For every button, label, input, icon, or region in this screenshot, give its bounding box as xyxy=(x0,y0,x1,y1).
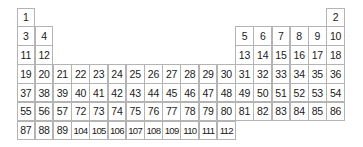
empty-cell xyxy=(126,8,144,27)
element-cell[interactable]: 9 xyxy=(308,26,327,45)
element-cell[interactable]: 53 xyxy=(308,83,327,102)
empty-cell xyxy=(145,8,163,27)
element-cell[interactable]: 1 xyxy=(17,8,36,27)
element-cell[interactable]: 35 xyxy=(308,64,327,83)
element-cell[interactable]: 54 xyxy=(326,83,345,102)
element-cell[interactable]: 36 xyxy=(326,64,345,83)
element-cell[interactable]: 104 xyxy=(71,121,90,140)
element-cell[interactable]: 4 xyxy=(35,26,54,45)
element-cell[interactable]: 38 xyxy=(35,83,54,102)
element-cell[interactable]: 88 xyxy=(35,121,54,140)
element-cell[interactable]: 32 xyxy=(253,64,272,83)
element-cell[interactable]: 10 xyxy=(326,26,345,45)
element-cell[interactable]: 43 xyxy=(126,83,145,102)
empty-cell xyxy=(309,8,327,27)
element-cell[interactable]: 50 xyxy=(253,83,272,102)
element-cell[interactable]: 76 xyxy=(144,102,163,121)
element-cell[interactable]: 56 xyxy=(35,102,54,121)
element-cell[interactable]: 105 xyxy=(89,121,108,140)
element-cell[interactable]: 11 xyxy=(17,45,36,64)
element-cell[interactable]: 28 xyxy=(180,64,199,83)
empty-cell xyxy=(290,8,308,27)
element-cell[interactable]: 19 xyxy=(17,64,36,83)
element-cell[interactable]: 2 xyxy=(326,8,345,27)
element-cell[interactable]: 85 xyxy=(308,102,327,121)
empty-cell xyxy=(217,8,235,27)
empty-cell xyxy=(254,121,272,140)
element-cell[interactable]: 33 xyxy=(272,64,291,83)
element-cell[interactable]: 24 xyxy=(108,64,127,83)
element-cell[interactable]: 25 xyxy=(126,64,145,83)
element-cell[interactable]: 13 xyxy=(235,45,254,64)
element-cell[interactable]: 3 xyxy=(17,26,36,45)
element-cell[interactable]: 45 xyxy=(162,83,181,102)
element-cell[interactable]: 12 xyxy=(35,45,54,64)
grid-body: 1234567891011121314151617181920212223242… xyxy=(17,8,345,140)
element-cell[interactable]: 31 xyxy=(235,64,254,83)
element-cell[interactable]: 57 xyxy=(53,102,72,121)
element-cell[interactable]: 41 xyxy=(89,83,108,102)
empty-cell xyxy=(199,46,217,65)
element-cell[interactable]: 55 xyxy=(17,102,36,121)
element-cell[interactable]: 30 xyxy=(217,64,236,83)
element-cell[interactable]: 111 xyxy=(199,121,218,140)
element-cell[interactable]: 21 xyxy=(53,64,72,83)
element-cell[interactable]: 8 xyxy=(290,26,309,45)
empty-cell xyxy=(126,27,144,46)
element-cell[interactable]: 44 xyxy=(144,83,163,102)
element-cell[interactable]: 39 xyxy=(53,83,72,102)
element-cell[interactable]: 17 xyxy=(308,45,327,64)
element-cell[interactable]: 27 xyxy=(162,64,181,83)
element-cell[interactable]: 108 xyxy=(144,121,163,140)
element-cell[interactable]: 15 xyxy=(272,45,291,64)
element-cell[interactable]: 84 xyxy=(290,102,309,121)
element-cell[interactable]: 51 xyxy=(272,83,291,102)
element-cell[interactable]: 29 xyxy=(199,64,218,83)
element-cell[interactable]: 5 xyxy=(235,26,254,45)
element-cell[interactable]: 74 xyxy=(108,102,127,121)
element-cell[interactable]: 82 xyxy=(253,102,272,121)
element-cell[interactable]: 72 xyxy=(71,102,90,121)
empty-cell xyxy=(236,8,254,27)
element-cell[interactable]: 81 xyxy=(235,102,254,121)
element-cell[interactable]: 42 xyxy=(108,83,127,102)
empty-cell xyxy=(217,27,235,46)
element-cell[interactable]: 49 xyxy=(235,83,254,102)
element-cell[interactable]: 75 xyxy=(126,102,145,121)
element-cell[interactable]: 47 xyxy=(199,83,218,102)
element-cell[interactable]: 87 xyxy=(17,121,36,140)
element-cell[interactable]: 34 xyxy=(290,64,309,83)
empty-cell xyxy=(108,46,126,65)
element-cell[interactable]: 109 xyxy=(162,121,181,140)
element-cell[interactable]: 22 xyxy=(71,64,90,83)
empty-cell xyxy=(163,8,181,27)
element-cell[interactable]: 83 xyxy=(272,102,291,121)
element-cell[interactable]: 46 xyxy=(180,83,199,102)
element-cell[interactable]: 20 xyxy=(35,64,54,83)
element-cell[interactable]: 79 xyxy=(199,102,218,121)
element-cell[interactable]: 23 xyxy=(89,64,108,83)
element-cell[interactable]: 16 xyxy=(290,45,309,64)
element-cell[interactable]: 80 xyxy=(217,102,236,121)
element-cell[interactable]: 37 xyxy=(17,83,36,102)
element-cell[interactable]: 7 xyxy=(272,26,291,45)
element-cell[interactable]: 77 xyxy=(162,102,181,121)
element-cell[interactable]: 106 xyxy=(108,121,127,140)
element-cell[interactable]: 26 xyxy=(144,64,163,83)
empty-cell xyxy=(254,8,272,27)
element-cell[interactable]: 14 xyxy=(253,45,272,64)
element-cell[interactable]: 110 xyxy=(180,121,199,140)
element-cell[interactable]: 78 xyxy=(180,102,199,121)
element-cell[interactable]: 48 xyxy=(217,83,236,102)
element-cell[interactable]: 107 xyxy=(126,121,145,140)
element-cell[interactable]: 6 xyxy=(253,26,272,45)
element-cell[interactable]: 73 xyxy=(89,102,108,121)
element-cell[interactable]: 112 xyxy=(217,121,236,140)
element-cell[interactable]: 89 xyxy=(53,121,72,140)
empty-cell xyxy=(181,8,199,27)
element-cell[interactable]: 18 xyxy=(326,45,345,64)
element-cell[interactable]: 86 xyxy=(326,102,345,121)
empty-cell xyxy=(108,27,126,46)
element-cell[interactable]: 40 xyxy=(71,83,90,102)
element-cell[interactable]: 52 xyxy=(290,83,309,102)
